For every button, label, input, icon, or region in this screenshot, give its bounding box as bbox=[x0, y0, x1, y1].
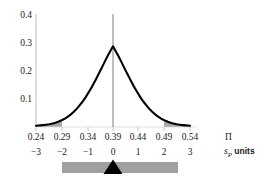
x-tick-label-primary-4: 0.44 bbox=[130, 133, 147, 143]
x-axis-primary-label: Π bbox=[225, 133, 232, 143]
x-axis-tick-marks bbox=[36, 127, 190, 131]
x-tick-label-primary-1: 0.29 bbox=[54, 133, 71, 143]
x-tick-label-secondary-3: 0 bbox=[111, 148, 116, 158]
normal-distribution-figure: 0.4 0.3 0.2 0.1 0.24 0.29 0.34 0.39 0.44… bbox=[0, 0, 274, 178]
x-tick-label-secondary-1: −2 bbox=[57, 148, 67, 158]
y-tick-label-1: 0.3 bbox=[10, 39, 32, 49]
x-axis-secondary-units-word: units bbox=[234, 146, 254, 156]
y-tick-label-3: 0.1 bbox=[10, 95, 32, 105]
x-tick-label-primary-3: 0.39 bbox=[105, 133, 122, 143]
x-axis-secondary-subscript: P bbox=[228, 151, 232, 159]
x-tick-label-secondary-2: −1 bbox=[83, 148, 93, 158]
x-tick-label-secondary-5: 2 bbox=[162, 148, 167, 158]
x-tick-label-secondary-6: 3 bbox=[188, 148, 193, 158]
x-axis-secondary-label: sP units bbox=[224, 147, 255, 159]
x-tick-label-primary-0: 0.24 bbox=[28, 133, 45, 143]
x-tick-label-primary-6: 0.54 bbox=[182, 133, 199, 143]
x-tick-label-primary-2: 0.34 bbox=[80, 133, 97, 143]
x-tick-label-secondary-4: 1 bbox=[136, 148, 141, 158]
y-tick-label-0: 0.4 bbox=[10, 11, 32, 21]
x-tick-label-secondary-0: −3 bbox=[31, 148, 41, 158]
y-tick-label-2: 0.2 bbox=[10, 67, 32, 77]
x-tick-label-primary-5: 0.49 bbox=[156, 133, 173, 143]
